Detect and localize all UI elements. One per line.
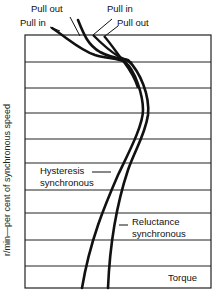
diagram-canvas <box>0 0 214 296</box>
label-pull-in-left: Pull in <box>20 17 46 28</box>
leader-lines <box>50 17 128 225</box>
label-hysteresis-sync: synchronous <box>40 177 94 188</box>
label-reluctance: Reluctance <box>132 216 180 227</box>
label-pull-out-left: Pull out <box>31 3 63 14</box>
label-pull-in-right: Pull in <box>107 3 133 14</box>
label-pull-out-right: Pull out <box>117 17 149 28</box>
plot-frame <box>25 35 211 288</box>
label-reluctance-sync: synchronous <box>132 228 186 239</box>
x-axis-label: Torque <box>168 272 197 283</box>
hysteresis-curve <box>52 28 143 288</box>
reluctance-curve <box>78 20 148 288</box>
label-hysteresis: Hysteresis <box>40 165 84 176</box>
y-axis-label: r/min—per cent of synchronous speed <box>2 104 12 256</box>
